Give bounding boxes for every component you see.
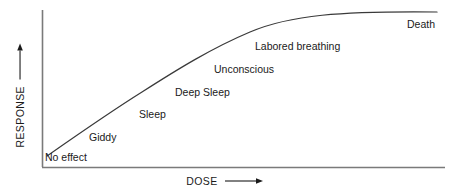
arrow-up-icon — [16, 43, 24, 81]
arrow-right-icon — [224, 177, 264, 185]
annotation-labored-breathing: Labored breathing — [255, 41, 340, 52]
annotation-deep-sleep: Deep Sleep — [175, 87, 230, 98]
annotation-unconscious: Unconscious — [214, 64, 274, 75]
x-axis-title: DOSE — [150, 174, 300, 188]
annotation-no-effect: No effect — [45, 152, 87, 163]
chart-plot-area — [0, 0, 460, 193]
x-axis-title-label: DOSE — [186, 176, 217, 187]
y-axis-title-label: RESPONSE — [15, 86, 26, 148]
dose-response-chart: RESPONSE DOSE No effect Giddy Sleep Deep… — [0, 0, 460, 193]
y-axis-title: RESPONSE — [0, 50, 40, 140]
annotation-sleep: Sleep — [139, 109, 166, 120]
annotation-giddy: Giddy — [89, 132, 116, 143]
annotation-death: Death — [407, 19, 435, 30]
